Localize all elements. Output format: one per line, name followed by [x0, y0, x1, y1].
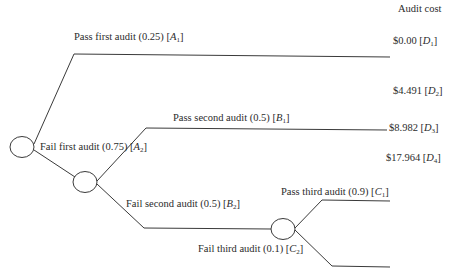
branch-a1-line: [34, 54, 390, 144]
branch-c2-line: [295, 230, 390, 267]
third-chance-node: [271, 219, 295, 240]
branch-label-b1: Pass second audit (0.5) [B1]: [173, 112, 289, 127]
audit-cost-header: Audit cost: [398, 3, 441, 15]
branch-label-a1: Pass first audit (0.25) [A1]: [74, 31, 183, 46]
decision-tree: [0, 0, 449, 278]
root-chance-node: [10, 137, 34, 158]
branch-label-a2: Fail first audit (0.75) [A2]: [40, 141, 147, 156]
branch-label-c2: Fail third audit (0.1) [C2]: [198, 243, 303, 258]
cost-label-d3: $8.982 [D3]: [389, 122, 439, 137]
cost-label-d1: $0.00 [D1]: [393, 35, 437, 50]
cost-label-d4: $17.964 [D4]: [386, 152, 441, 167]
branch-label-c1: Pass third audit (0.9) [C1]: [281, 186, 389, 201]
second-chance-node: [73, 172, 97, 193]
branch-label-b2: Fail second audit (0.5) [B2]: [126, 198, 240, 213]
branch-c1-line: [295, 200, 390, 228]
cost-label-d2: $4.491 [D2]: [393, 85, 443, 100]
